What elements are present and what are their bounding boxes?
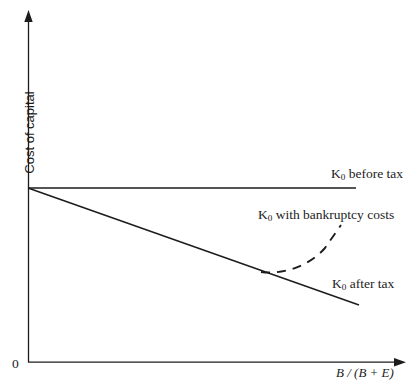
annotation-before-tax: K0 before tax: [331, 166, 403, 182]
annotation-after-tax: K0 after tax: [332, 276, 394, 292]
annotation-bankruptcy-costs: K0 with bankruptcy costs: [258, 207, 394, 223]
axis-origin-label: 0: [12, 356, 19, 372]
series-line-after-tax: [28, 188, 359, 305]
chart-canvas: [0, 0, 418, 387]
y-axis-label: Cost of capital: [22, 83, 37, 183]
series-curve-bankruptcy-costs: [261, 225, 341, 273]
x-axis-label: B / (B + E): [336, 365, 394, 381]
y-axis-arrow-icon: [24, 10, 32, 22]
x-axis-arrow-icon: [394, 358, 406, 366]
chart-figure: K0 before tax K0 with bankruptcy costs K…: [0, 0, 418, 387]
